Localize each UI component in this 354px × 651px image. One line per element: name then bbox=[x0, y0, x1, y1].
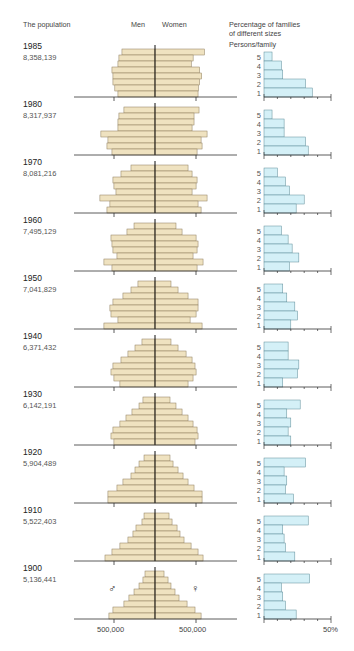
family-size-bar bbox=[264, 485, 285, 494]
men-bar bbox=[121, 357, 155, 363]
family-size-label: 4 bbox=[257, 62, 261, 71]
women-bar bbox=[155, 241, 198, 247]
family-size-label: 5 bbox=[257, 401, 261, 410]
family-size-bar bbox=[264, 574, 310, 583]
family-size-bar bbox=[264, 262, 289, 271]
family-size-bar bbox=[264, 293, 287, 302]
population-chart: 5432154321543215432154321543215432154321… bbox=[0, 0, 354, 651]
women-bar bbox=[155, 519, 172, 525]
women-bar bbox=[155, 323, 202, 329]
family-size-label: 1 bbox=[257, 263, 261, 272]
family-size-bar bbox=[264, 525, 283, 534]
family-size-bar bbox=[264, 284, 283, 293]
family-size-bar bbox=[264, 119, 284, 128]
women-bar bbox=[155, 131, 207, 137]
men-bar bbox=[124, 107, 155, 113]
women-bar bbox=[155, 421, 193, 427]
family-size-label: 5 bbox=[257, 111, 261, 120]
women-bar bbox=[155, 143, 202, 149]
women-bar bbox=[155, 613, 201, 619]
family-size-bar bbox=[264, 128, 284, 137]
women-bar bbox=[155, 427, 197, 433]
men-bar bbox=[124, 601, 155, 607]
family-size-bar bbox=[264, 235, 288, 244]
women-bar bbox=[155, 537, 184, 543]
family-size-bar bbox=[264, 543, 285, 552]
family-size-label: 3 bbox=[257, 245, 261, 254]
family-size-label: 5 bbox=[257, 53, 261, 62]
women-bar bbox=[155, 433, 198, 439]
men-bar bbox=[113, 607, 155, 613]
family-size-label: 3 bbox=[257, 593, 261, 602]
family-size-label: 5 bbox=[257, 575, 261, 584]
family-size-label: 3 bbox=[257, 187, 261, 196]
women-bar bbox=[155, 125, 192, 131]
family-size-bar bbox=[264, 226, 281, 235]
family-size-bar bbox=[264, 70, 283, 79]
women-bar bbox=[155, 49, 204, 55]
women-bar bbox=[155, 397, 170, 403]
women-axis-tick-label: 500,000 bbox=[179, 625, 206, 634]
family-size-label: 4 bbox=[257, 236, 261, 245]
women-bar bbox=[155, 253, 193, 259]
men-bar bbox=[112, 241, 155, 247]
family-size-label: 3 bbox=[257, 303, 261, 312]
women-bar bbox=[155, 577, 168, 583]
women-bar bbox=[155, 381, 188, 387]
women-bar bbox=[155, 571, 164, 577]
family-size-bar bbox=[264, 110, 272, 119]
family-size-bar bbox=[264, 409, 287, 418]
family-size-label: 4 bbox=[257, 294, 261, 303]
women-bar bbox=[155, 357, 192, 363]
family-size-label: 5 bbox=[257, 285, 261, 294]
family-size-label: 2 bbox=[257, 254, 261, 263]
family-size-bar bbox=[264, 61, 281, 70]
women-bar bbox=[155, 61, 191, 67]
women-bar bbox=[155, 311, 196, 317]
men-bar bbox=[122, 49, 155, 55]
men-bar bbox=[113, 299, 155, 305]
men-bar bbox=[112, 549, 155, 555]
women-bar bbox=[155, 491, 202, 497]
men-bar bbox=[118, 61, 155, 67]
women-bar bbox=[155, 305, 198, 311]
men-bar bbox=[113, 177, 155, 183]
female-symbol-icon: ♀ bbox=[191, 584, 199, 593]
family-size-label: 4 bbox=[257, 584, 261, 593]
family-size-bar bbox=[264, 351, 288, 360]
women-bar bbox=[155, 461, 173, 467]
women-bar bbox=[155, 299, 198, 305]
men-bar bbox=[118, 317, 155, 323]
women-bar bbox=[155, 369, 196, 375]
family-size-bar bbox=[264, 320, 291, 329]
family-size-bar bbox=[264, 244, 292, 253]
men-bar bbox=[110, 201, 155, 207]
family-size-label: 5 bbox=[257, 227, 261, 236]
women-bar bbox=[155, 207, 201, 213]
men-bar bbox=[114, 439, 155, 445]
men-bar bbox=[132, 409, 155, 415]
men-bar bbox=[110, 305, 155, 311]
family-size-label: 1 bbox=[257, 611, 261, 620]
women-bar bbox=[155, 85, 198, 91]
women-bar bbox=[155, 513, 169, 519]
family-size-label: 3 bbox=[257, 419, 261, 428]
women-bar bbox=[155, 473, 183, 479]
family-size-bar bbox=[264, 79, 306, 88]
family-size-bar bbox=[264, 52, 272, 61]
women-bar bbox=[155, 183, 196, 189]
women-bar bbox=[155, 375, 193, 381]
women-bar bbox=[155, 403, 176, 409]
men-bar bbox=[133, 531, 155, 537]
women-bar bbox=[155, 485, 194, 491]
men-bar bbox=[114, 375, 155, 381]
women-bar bbox=[155, 177, 197, 183]
family-size-label: 3 bbox=[257, 129, 261, 138]
family-size-label: 5 bbox=[257, 517, 261, 526]
men-bar bbox=[135, 345, 155, 351]
women-bar bbox=[155, 455, 170, 461]
family-size-bar bbox=[264, 583, 281, 592]
women-bar bbox=[155, 107, 199, 113]
family-size-label: 4 bbox=[257, 468, 261, 477]
men-bar bbox=[112, 149, 155, 155]
